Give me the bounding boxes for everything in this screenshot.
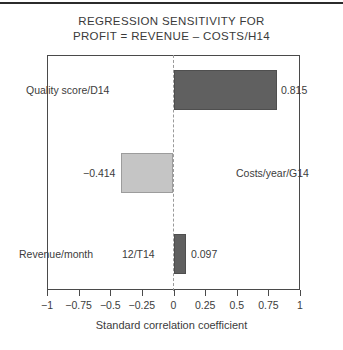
x-tick bbox=[300, 290, 301, 296]
x-tick-label: −1 bbox=[41, 299, 53, 312]
bar-quality-score bbox=[174, 70, 277, 110]
regression-sensitivity-chart: REGRESSION SENSITIVITY FOR PROFIT = REVE… bbox=[0, 0, 343, 350]
x-tick-label: 0 bbox=[171, 299, 177, 312]
x-tick-label: −0.75 bbox=[65, 299, 92, 312]
bar-value-revenue-month: 0.097 bbox=[191, 248, 217, 260]
x-tick bbox=[47, 290, 48, 296]
x-tick-label: 0.5 bbox=[229, 299, 244, 312]
x-tick-label: 0.25 bbox=[195, 299, 215, 312]
x-tick-label: 1 bbox=[297, 299, 303, 312]
x-tick-label: −0.5 bbox=[100, 299, 121, 312]
x-tick bbox=[174, 290, 175, 296]
bar-label-quality-score: Quality score/D14 bbox=[26, 84, 109, 96]
x-axis-title: Standard correlation coefficient bbox=[0, 319, 343, 331]
bar-label-costs-year: Costs/year/G14 bbox=[236, 167, 309, 179]
chart-title-line-2: PROFIT = REVENUE – COSTS/H14 bbox=[0, 29, 343, 44]
x-axis-tick-labels: −1 −0.75 −0.5 −0.25 0 0.25 0.5 0.75 1 bbox=[0, 299, 343, 313]
x-tick-label: −0.25 bbox=[129, 299, 156, 312]
x-tick bbox=[110, 290, 111, 296]
top-divider bbox=[0, 2, 343, 4]
bar-revenue-month bbox=[174, 234, 186, 274]
chart-title-line-1: REGRESSION SENSITIVITY FOR bbox=[0, 14, 343, 29]
bar-cellref-revenue-month: 12/T14 bbox=[122, 248, 155, 260]
chart-title: REGRESSION SENSITIVITY FOR PROFIT = REVE… bbox=[0, 14, 343, 44]
x-tick bbox=[237, 290, 238, 296]
x-tick bbox=[205, 290, 206, 296]
bar-value-costs-year: −0.414 bbox=[83, 167, 115, 179]
x-axis-ticks bbox=[47, 290, 300, 297]
x-tick-label: 0.75 bbox=[258, 299, 278, 312]
bar-label-revenue-month: Revenue/month bbox=[19, 248, 93, 260]
x-tick bbox=[268, 290, 269, 296]
bar-value-quality-score: 0.815 bbox=[281, 84, 307, 96]
bar-costs-year bbox=[121, 153, 173, 193]
x-tick bbox=[142, 290, 143, 296]
x-tick bbox=[79, 290, 80, 296]
